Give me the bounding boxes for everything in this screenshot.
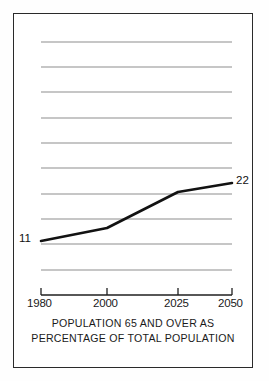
caption-line-2: PERCENTAGE OF TOTAL POPULATION	[14, 331, 252, 346]
x-tick-label-2050: 2050	[218, 297, 243, 309]
figure-container: 1980 2000 2025 2050 11 22 POPULATION 65 …	[0, 0, 269, 381]
data-point-label-end: 22	[236, 174, 249, 186]
x-tick-label-2025: 2025	[164, 297, 189, 309]
data-point-label-start: 11	[19, 232, 31, 244]
x-tick-label-1980: 1980	[27, 297, 52, 309]
x-tick-label-2000: 2000	[93, 297, 118, 309]
chart-frame-border	[13, 13, 253, 368]
caption-line-1: POPULATION 65 AND OVER AS	[14, 316, 252, 331]
chart-caption: POPULATION 65 AND OVER AS PERCENTAGE OF …	[14, 316, 252, 345]
